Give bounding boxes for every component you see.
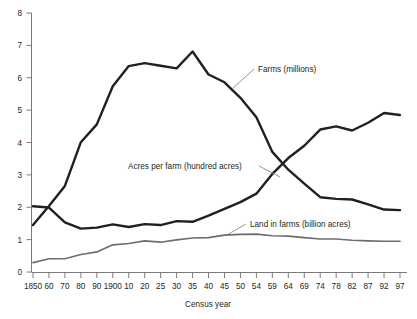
x-tick-label: 64 [284, 282, 294, 291]
y-tick-label: 0 [17, 268, 22, 277]
y-axis-tick-labels: 012345678 [17, 9, 22, 277]
series-annotation-label: Land in farms (billion acres) [250, 220, 351, 229]
line-chart: 012345678 185060708090190010202530354045… [0, 0, 417, 319]
x-tick-label: 90 [92, 282, 102, 291]
series-annotation-label: Acres per farm (hundred acres) [128, 162, 242, 171]
x-tick-label: 45 [220, 282, 230, 291]
y-tick-label: 2 [17, 203, 22, 212]
chart-container: 012345678 185060708090190010202530354045… [0, 0, 417, 319]
x-tick-label: 35 [188, 282, 198, 291]
x-tick-label: 74 [316, 282, 326, 291]
x-tick-label: 69 [300, 282, 310, 291]
chart-background [0, 0, 417, 319]
y-tick-label: 4 [17, 139, 22, 148]
x-tick-label: 70 [60, 282, 70, 291]
x-tick-label: 50 [236, 282, 246, 291]
y-tick-label: 7 [17, 41, 22, 50]
x-tick-label: 59 [268, 282, 278, 291]
x-tick-label: 97 [395, 282, 405, 291]
y-tick-label: 5 [17, 106, 22, 115]
x-tick-label: 82 [348, 282, 358, 291]
x-tick-label: 78 [332, 282, 342, 291]
x-tick-label: 80 [76, 282, 86, 291]
x-tick-label: 40 [204, 282, 214, 291]
x-axis-title: Census year [185, 300, 231, 309]
x-tick-label: 87 [364, 282, 374, 291]
x-tick-label: 30 [172, 282, 182, 291]
series-annotation-label: Farms (millions) [258, 65, 316, 74]
x-tick-label: 1900 [104, 282, 123, 291]
y-tick-label: 3 [17, 171, 22, 180]
y-tick-label: 1 [17, 236, 22, 245]
x-tick-label: 54 [252, 282, 262, 291]
x-tick-label: 25 [156, 282, 166, 291]
y-tick-label: 8 [17, 9, 22, 18]
x-tick-label: 92 [379, 282, 389, 291]
x-tick-label: 60 [44, 282, 54, 291]
x-tick-label: 20 [140, 282, 150, 291]
x-tick-label: 10 [124, 282, 134, 291]
x-tick-label: 1850 [24, 282, 43, 291]
y-tick-label: 6 [17, 74, 22, 83]
